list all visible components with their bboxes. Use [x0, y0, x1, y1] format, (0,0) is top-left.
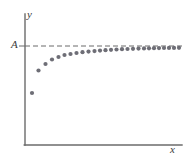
data-point	[162, 46, 166, 50]
data-point	[114, 47, 118, 51]
data-points-group	[30, 46, 181, 95]
data-point	[36, 68, 40, 72]
data-point	[80, 50, 84, 54]
data-point	[30, 91, 34, 95]
y-axis-label: y	[27, 9, 32, 20]
axes-group	[24, 14, 182, 145]
data-point	[131, 47, 135, 51]
data-point	[167, 46, 171, 50]
data-point	[136, 47, 140, 51]
data-point	[98, 49, 102, 53]
data-point	[125, 47, 129, 51]
data-point	[56, 55, 60, 59]
data-point	[74, 51, 78, 55]
data-point	[109, 48, 113, 52]
data-point	[50, 57, 54, 61]
data-point	[86, 50, 90, 54]
data-point	[43, 62, 47, 66]
data-point	[92, 49, 96, 53]
plot-svg	[0, 0, 186, 160]
x-axis-label: x	[170, 144, 175, 155]
data-point	[152, 46, 156, 50]
data-point	[103, 48, 107, 52]
data-point	[157, 46, 161, 50]
data-point	[62, 53, 66, 57]
data-point	[172, 46, 176, 50]
data-point	[68, 52, 72, 56]
data-point	[120, 47, 124, 51]
data-point	[142, 46, 146, 50]
figure-container: y x A	[0, 0, 186, 160]
asymptote-level-label: A	[11, 39, 18, 50]
data-point	[177, 46, 181, 50]
data-point	[147, 46, 151, 50]
